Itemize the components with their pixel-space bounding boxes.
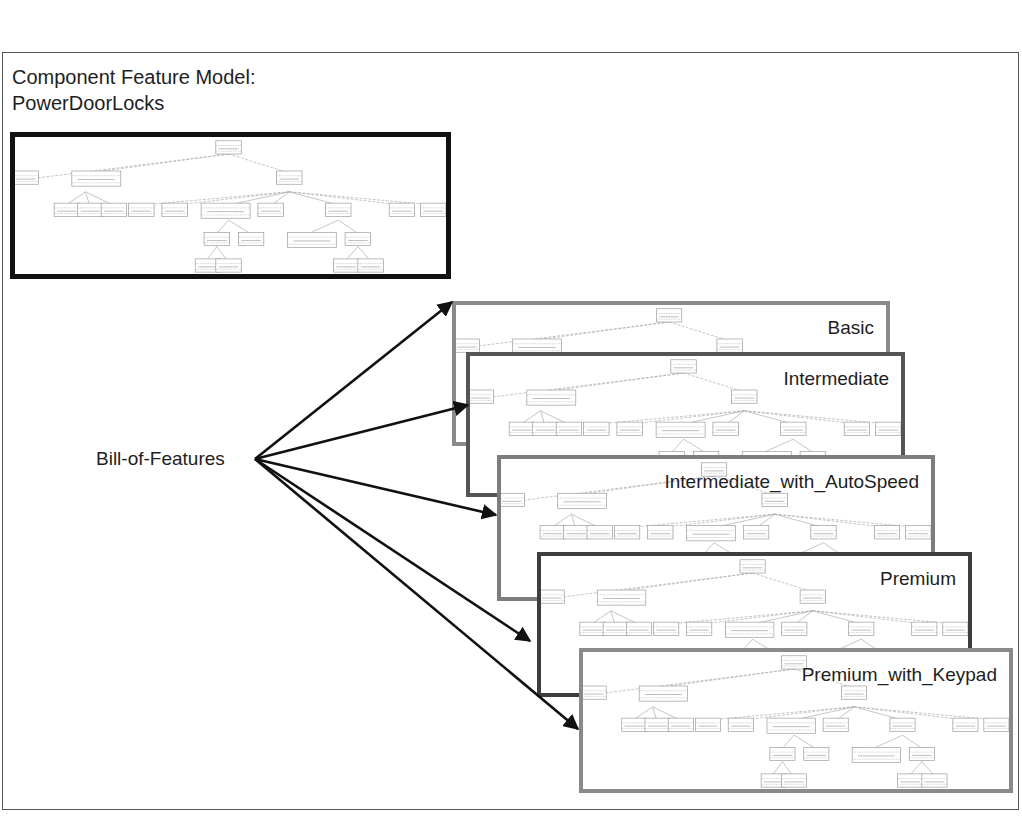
title-line-2: PowerDoorLocks bbox=[12, 90, 255, 116]
page-title: Component Feature Model: PowerDoorLocks bbox=[12, 64, 255, 116]
variant-label-premium-with-keypad: Premium_with_Keypad bbox=[802, 664, 997, 686]
variant-label-premium: Premium bbox=[880, 568, 956, 590]
feature-tree-thumbnail-icon bbox=[15, 137, 446, 274]
bill-of-features-label: Bill-of-Features bbox=[96, 448, 225, 470]
title-line-1: Component Feature Model: bbox=[12, 64, 255, 90]
variant-label-intermediate: Intermediate bbox=[783, 368, 889, 390]
variant-box-premium-with-keypad[interactable]: Premium_with_Keypad bbox=[579, 648, 1013, 793]
component-feature-model-box[interactable] bbox=[10, 132, 451, 279]
variant-label-intermediate-with-autospeed: Intermediate_with_AutoSpeed bbox=[664, 471, 919, 493]
variant-label-basic: Basic bbox=[828, 317, 874, 339]
